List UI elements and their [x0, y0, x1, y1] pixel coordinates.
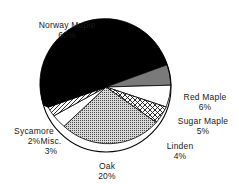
label-red-maple-name: Red Maple	[174, 92, 236, 102]
label-oak-name: Oak	[85, 161, 129, 171]
label-misc-name: Misc.	[33, 136, 69, 146]
label-red-maple-value: 6%	[174, 102, 236, 112]
label-sugar-maple-value: 5%	[168, 126, 238, 136]
label-norway-maple: Norway Maple 60%	[19, 20, 115, 40]
label-sugar-maple: Sugar Maple 5%	[168, 116, 238, 136]
pie-chart: Norway Maple 60% Red Maple 6% Sugar Mapl…	[0, 0, 239, 184]
label-linden-name: Linden	[152, 141, 208, 151]
label-misc-value: 3%	[33, 146, 69, 156]
label-oak-value: 20%	[85, 171, 129, 181]
label-norway-maple-value: 60%	[19, 30, 115, 40]
label-red-maple: Red Maple 6%	[174, 92, 236, 112]
label-sycamore-name: Sycamore	[3, 126, 65, 136]
label-oak: Oak 20%	[85, 161, 129, 181]
label-norway-maple-name: Norway Maple	[19, 20, 115, 30]
label-linden-value: 4%	[152, 151, 208, 161]
label-linden: Linden 4%	[152, 141, 208, 161]
label-misc: Misc. 3%	[33, 136, 69, 156]
label-sugar-maple-name: Sugar Maple	[168, 116, 238, 126]
